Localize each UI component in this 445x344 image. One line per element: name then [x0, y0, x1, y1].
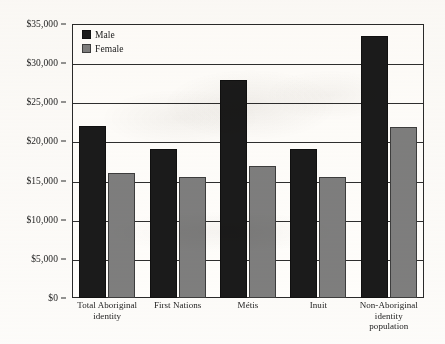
y-tick-mark [61, 102, 66, 103]
y-tick-mark [61, 180, 66, 181]
bar-group [283, 24, 353, 298]
bar-male [79, 126, 106, 298]
y-tick-label: $25,000 [26, 97, 58, 107]
bar-female [390, 127, 417, 298]
bar-male [220, 80, 247, 298]
y-tick-mark [61, 24, 66, 25]
x-tick-label-line: identity [346, 311, 432, 322]
y-tick-label: $15,000 [26, 176, 58, 186]
bar-group [142, 24, 212, 298]
x-tick-label-line: population [346, 321, 432, 332]
x-tick-label-line: identity [64, 311, 150, 322]
y-tick-mark [61, 219, 66, 220]
bar-male [290, 149, 317, 298]
bar-female [319, 177, 346, 298]
bar-female [179, 177, 206, 298]
bar-male [150, 149, 177, 298]
y-tick-label: $20,000 [26, 136, 58, 146]
bar-male [361, 36, 388, 298]
x-axis: Total AboriginalidentityFirst NationsMét… [72, 300, 424, 344]
y-tick-mark [61, 298, 66, 299]
bar-female [249, 166, 276, 298]
bar-group [213, 24, 283, 298]
y-tick-label: $30,000 [26, 58, 58, 68]
x-tick-label: Non-Aboriginalidentitypopulation [346, 300, 432, 332]
legend-label: Female [95, 44, 124, 54]
y-tick-label: $5,000 [31, 254, 58, 264]
y-tick-mark [61, 258, 66, 259]
legend-swatch-icon [82, 30, 91, 39]
y-tick-mark [61, 141, 66, 142]
legend-item-male: Male [82, 28, 124, 41]
bar-group [72, 24, 142, 298]
y-tick-mark [61, 63, 66, 64]
y-tick-label: $10,000 [26, 215, 58, 225]
legend-item-female: Female [82, 42, 124, 55]
x-tick-label-line: Non-Aboriginal [346, 300, 432, 311]
legend-swatch-icon [82, 44, 91, 53]
bar-chart-screenshot: $35,000$30,000$25,000$20,000$15,000$10,0… [0, 0, 445, 344]
bars-layer [72, 24, 424, 298]
bar-group [354, 24, 424, 298]
legend-label: Male [95, 30, 115, 40]
y-axis: $35,000$30,000$25,000$20,000$15,000$10,0… [0, 24, 66, 298]
bar-female [108, 173, 135, 298]
y-tick-label: $0 [48, 293, 58, 303]
chart-legend: MaleFemale [82, 28, 124, 56]
y-tick-label: $35,000 [26, 19, 58, 29]
